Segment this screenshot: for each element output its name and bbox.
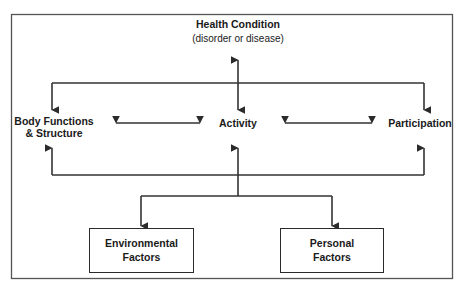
body-functions-node: Body Functions & Structure xyxy=(4,115,104,139)
environmental-factors-line2: Factors xyxy=(105,251,178,264)
health-condition-subtitle: (disorder or disease) xyxy=(160,33,316,45)
personal-factors-line1: Personal xyxy=(310,237,354,250)
personal-factors-text: Personal Factors xyxy=(310,237,354,263)
personal-factors-box: Personal Factors xyxy=(280,228,384,273)
diagram-frame xyxy=(12,15,453,279)
body-functions-line2: & Structure xyxy=(4,127,104,139)
activity-node: Activity xyxy=(198,117,278,129)
environmental-factors-text: Environmental Factors xyxy=(105,237,178,263)
icf-model-diagram: Health Condition (disorder or disease) B… xyxy=(0,0,465,293)
personal-factors-line2: Factors xyxy=(310,251,354,264)
body-functions-line1: Body Functions xyxy=(4,115,104,127)
environmental-factors-line1: Environmental xyxy=(105,237,178,250)
participation-node: Participation xyxy=(378,117,462,129)
health-condition-title: Health Condition xyxy=(160,18,316,30)
environmental-factors-box: Environmental Factors xyxy=(89,228,194,273)
health-condition-node: Health Condition (disorder or disease) xyxy=(160,18,316,45)
